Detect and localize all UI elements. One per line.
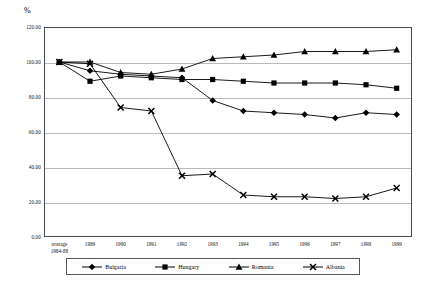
x-axis-tick-label: 1989 [85,241,95,248]
x-axis-tick-label: 1999 [391,241,401,248]
x-axis-tick-label: 1992 [177,241,187,248]
legend-item-hungary: Hungary [154,262,199,272]
x-axis-tick-label: 1991 [146,241,156,248]
legend-item-romania: Romania [228,262,274,272]
triangle-marker-icon [228,262,250,272]
cross-marker-icon [302,262,324,272]
x-axis-tick-label: average1984-88 [51,241,68,255]
x-axis-tick-label: 1994 [238,241,248,248]
x-axis-tick-label: 1990 [115,241,125,248]
x-axis-tick-label: 1993 [207,241,217,248]
legend-label: Bulgaria [105,264,126,270]
diamond-marker-icon [81,262,103,272]
x-axis-tick-label: 1996 [299,241,309,248]
legend-item-albania: Albania [302,262,345,272]
x-axis-tick-labels: average1984-8819891990199119921993199419… [0,0,428,288]
legend-label: Albania [326,264,345,270]
legend-item-bulgaria: Bulgaria [81,262,126,272]
x-axis-tick-label: 1997 [330,241,340,248]
chart-container: % 0.0020.0040.0060.0080.00100.00120.00 a… [0,0,428,288]
x-axis-tick-label: 1998 [361,241,371,248]
chart-legend: BulgariaHungaryRomaniaAlbania [66,258,360,275]
x-axis-tick-label: 1995 [269,241,279,248]
legend-label: Romania [252,264,274,270]
legend-label: Hungary [178,264,199,270]
square-marker-icon [154,262,176,272]
